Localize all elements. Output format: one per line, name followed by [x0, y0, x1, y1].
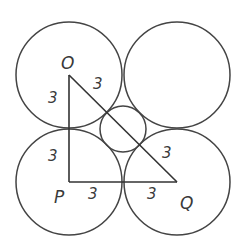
geometry-diagram: O P Q 3 3 3 3 3 3 — [0, 0, 247, 249]
segment-oq — [69, 75, 177, 182]
vertex-label-p: P — [54, 187, 65, 207]
circle-top-right — [124, 22, 230, 128]
length-label-op-lower: 3 — [48, 147, 58, 165]
length-label-pq-right: 3 — [147, 185, 157, 203]
length-label-oq-upper: 3 — [93, 75, 103, 93]
length-label-pq-left: 3 — [88, 185, 98, 203]
length-label-op-upper: 3 — [48, 89, 58, 107]
vertex-label-q: Q — [180, 193, 193, 213]
length-label-oq-lower: 3 — [162, 144, 172, 162]
vertex-label-o: O — [61, 53, 74, 73]
